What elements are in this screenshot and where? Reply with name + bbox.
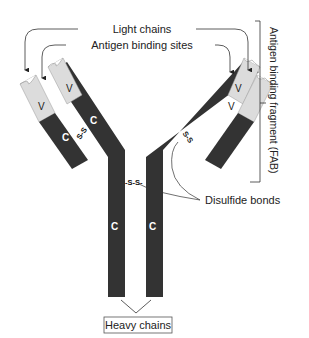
right-light-v-label: V	[228, 101, 235, 112]
hinge-disulfide-label: -S-S-	[125, 178, 143, 187]
fab-label: Antigen binding fragment (FAB)	[268, 27, 280, 174]
disulfide-bonds-label: Disulfide bonds	[205, 194, 281, 206]
left-heavy-c-label: C	[90, 115, 97, 126]
left-light-v-label: V	[38, 101, 45, 112]
left-heavy-v-label: V	[66, 83, 73, 94]
light-chains-label: Light chains	[113, 23, 172, 35]
right-stem-c-label: C	[149, 221, 156, 232]
heavy-chain-left	[51, 62, 125, 297]
heavy-chains-pointer	[121, 300, 151, 313]
antibody-diagram: V C V C V C V C C C S-S S-S -S-S- Light …	[0, 0, 309, 338]
right-heavy-v-label: V	[235, 83, 242, 94]
right-light-c-label: C	[207, 132, 214, 143]
right-arm-disulfide-label: S-S	[181, 129, 196, 144]
left-light-c-label: C	[62, 132, 69, 143]
left-arm-disulfide-label: S-S	[74, 126, 89, 141]
antigen-binding-sites-label: Antigen binding sites	[91, 39, 193, 51]
right-heavy-c-label: C	[173, 115, 180, 126]
left-stem-c-label: C	[111, 221, 118, 232]
heavy-chains-label: Heavy chains	[105, 319, 172, 331]
